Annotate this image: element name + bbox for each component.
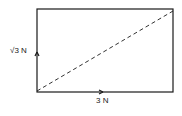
vertical-force-label: √3 N [10,46,27,55]
force-diagram [0,0,182,116]
resultant-diagonal [37,11,173,91]
horizontal-force-label: 3 N [96,96,108,105]
